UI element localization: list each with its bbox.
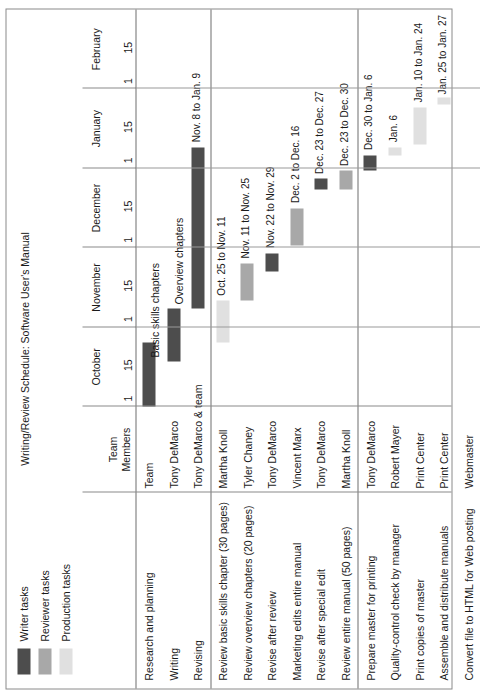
task-name: Writing bbox=[161, 648, 186, 680]
bar-date-label: Dec. 23 to Dec. 27 bbox=[312, 91, 325, 174]
tick-label-15: 15 bbox=[121, 41, 133, 53]
month-label: January bbox=[89, 88, 101, 167]
team-member: Vincent Marx bbox=[284, 427, 309, 488]
bar-date-label: Jan. 6 bbox=[386, 114, 399, 141]
task-name: Prepare master for printing bbox=[357, 555, 382, 680]
month-cell-february: February115 bbox=[82, 9, 136, 88]
table-row[interactable]: Convert file to HTML for Web postingWebm… bbox=[456, 9, 480, 688]
bar-date-label: Dec. 23 to Dec. 30 bbox=[337, 83, 350, 166]
gantt-bar[interactable] bbox=[413, 107, 426, 144]
month-cell-november: November115 bbox=[82, 247, 136, 326]
table-row[interactable]: Review basic skills chapter (30 pages)Ma… bbox=[210, 9, 235, 688]
task-name: Review entire manual (50 pages) bbox=[333, 526, 358, 680]
tick-label-15: 15 bbox=[121, 359, 133, 371]
team-member: Tony DeMarco bbox=[308, 420, 333, 488]
tick-label-15: 15 bbox=[121, 200, 133, 212]
legend-swatch-production bbox=[59, 648, 72, 674]
team-member: Print Center bbox=[407, 432, 432, 488]
gantt-bar[interactable] bbox=[167, 308, 180, 361]
tick-label-1: 1 bbox=[121, 316, 133, 322]
task-name: Revise after special edit bbox=[308, 569, 333, 680]
column-header-team-members: Team Members bbox=[106, 406, 132, 492]
table-body: Research and planningTeamWritingTony DeM… bbox=[136, 9, 480, 688]
month-gridline bbox=[136, 87, 480, 88]
bar-date-label: Jan. 10 to Jan. 24 bbox=[411, 22, 424, 102]
gantt-bar[interactable] bbox=[265, 253, 278, 272]
month-label: December bbox=[89, 168, 101, 247]
task-name: Quality-control check by manager bbox=[382, 524, 407, 680]
task-name: Review overview chapters (20 pages) bbox=[234, 505, 259, 680]
bar-annotation: Overview chapters bbox=[172, 217, 184, 304]
group-separator bbox=[210, 9, 211, 688]
gantt-bar[interactable] bbox=[216, 300, 229, 342]
table-header: Team Members October115November115Decemb… bbox=[82, 9, 136, 688]
bar-date-label: Nov. 8 to Jan. 9 bbox=[189, 72, 202, 141]
table-row[interactable]: Review overview chapters (20 pages)Tyler… bbox=[234, 9, 259, 688]
team-member: Robert Mayer bbox=[382, 424, 407, 488]
legend-item-reviewer: Reviewer tasks bbox=[36, 524, 53, 674]
team-member: Tony DeMarco bbox=[357, 420, 382, 488]
month-scale: October115November115December115January1… bbox=[82, 9, 136, 406]
month-cell-october: October115 bbox=[82, 327, 136, 406]
table-row[interactable]: Marketing edits entire manualVincent Mar… bbox=[284, 9, 309, 688]
month-gridline bbox=[136, 167, 480, 168]
legend-swatch-reviewer bbox=[38, 648, 51, 674]
column-header-line1: Team bbox=[106, 406, 119, 492]
gantt-bar[interactable] bbox=[290, 208, 303, 245]
team-member: Martha Knoll bbox=[210, 429, 235, 488]
bar-date-label: Nov. 22 to Nov. 29 bbox=[263, 166, 276, 247]
table-row[interactable]: Quality-control check by managerRobert M… bbox=[382, 9, 407, 688]
table-row[interactable]: Revise after reviewTony DeMarcoNov. 22 t… bbox=[259, 9, 284, 688]
table-row[interactable]: Review entire manual (50 pages)Martha Kn… bbox=[333, 9, 358, 688]
month-cell-january: January115 bbox=[82, 88, 136, 167]
gantt-bar[interactable] bbox=[437, 97, 450, 104]
table-row[interactable]: Prepare master for printingTony DeMarcoD… bbox=[357, 9, 382, 688]
table-row[interactable]: Revise after special editTony DeMarcoDec… bbox=[308, 9, 333, 688]
month-ticks: 115 bbox=[119, 9, 133, 88]
month-separator bbox=[82, 326, 136, 327]
month-ticks: 115 bbox=[119, 247, 133, 326]
tick-label-15: 15 bbox=[121, 279, 133, 291]
month-gridline bbox=[136, 326, 480, 327]
table-row[interactable]: Assemble and distribute manualsPrint Cen… bbox=[431, 9, 456, 688]
bar-date-label: Oct. 25 to Nov. 11 bbox=[214, 216, 227, 295]
tick-label-1: 1 bbox=[121, 395, 133, 401]
tick-label-1: 1 bbox=[121, 78, 133, 84]
chart-title: Writing/Review Schedule: Software User's… bbox=[18, 9, 30, 688]
gantt-bar[interactable] bbox=[339, 170, 352, 189]
table-row[interactable]: Print copies of masterPrint CenterJan. 1… bbox=[407, 9, 432, 688]
divider-task-member bbox=[82, 491, 451, 492]
month-label: October bbox=[89, 327, 101, 406]
month-separator bbox=[82, 167, 136, 168]
legend-item-production: Production tasks bbox=[57, 524, 74, 674]
bar-date-label: Jan. 25 to Jan. 27 bbox=[435, 14, 448, 94]
chart-frame: Writer tasks Reviewer tasks Production t… bbox=[5, 8, 452, 689]
table-row[interactable]: WritingTony DeMarcoBasic skills chapters bbox=[161, 9, 186, 688]
legend-label-production: Production tasks bbox=[60, 563, 71, 641]
month-label: February bbox=[89, 9, 101, 88]
month-ticks: 115 bbox=[119, 327, 133, 406]
bar-date-label: Dec. 30 to Jan. 6 bbox=[361, 74, 374, 150]
task-name: Marketing edits entire manual bbox=[284, 542, 309, 680]
team-member: Webmaster bbox=[456, 435, 480, 489]
gantt-bar[interactable] bbox=[314, 178, 327, 189]
tick-label-15: 15 bbox=[121, 121, 133, 133]
month-ticks: 115 bbox=[119, 168, 133, 247]
team-member: Tony DeMarco & team bbox=[185, 384, 210, 488]
gantt-bar[interactable] bbox=[388, 147, 401, 155]
gantt-table: Team Members October115November115Decemb… bbox=[82, 9, 451, 688]
team-member: Tony DeMarco bbox=[259, 420, 284, 488]
gantt-bar[interactable] bbox=[240, 263, 253, 300]
table-row[interactable]: RevisingTony DeMarco & teamNov. 8 to Jan… bbox=[185, 9, 210, 688]
task-name: Assemble and distribute manuals bbox=[431, 525, 456, 680]
team-member: Tyler Chaney bbox=[234, 426, 259, 488]
divider-member-plot bbox=[82, 405, 451, 406]
month-separator bbox=[82, 87, 136, 88]
gantt-bar[interactable] bbox=[191, 147, 204, 308]
tick-label-1: 1 bbox=[121, 236, 133, 242]
task-name: Convert file to HTML for Web posting bbox=[456, 508, 480, 680]
team-member: Martha Knoll bbox=[333, 429, 358, 488]
legend-label-reviewer: Reviewer tasks bbox=[39, 570, 50, 641]
